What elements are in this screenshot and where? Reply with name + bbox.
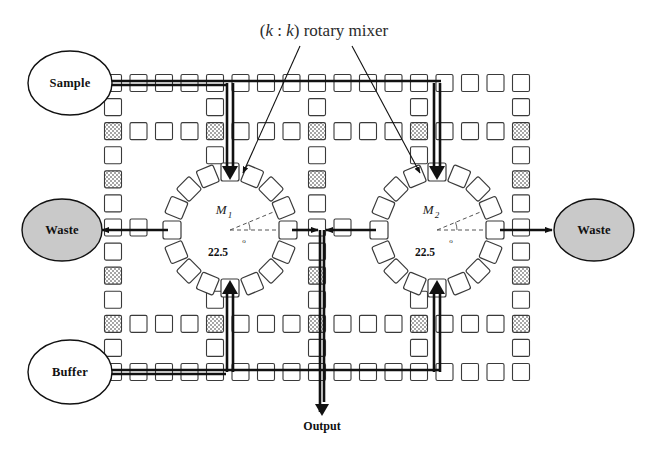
bus-electrode-cell <box>130 364 147 381</box>
electrode-cell <box>411 99 428 116</box>
bus-electrode-cell <box>436 123 453 140</box>
electrode-cell <box>105 243 122 260</box>
title-leader-line-2 <box>352 46 420 173</box>
mixer-ring-electrode <box>258 176 283 201</box>
electrode-cell <box>207 99 224 116</box>
mixer-label: M2 <box>422 202 440 220</box>
bus-electrode-cell <box>130 75 147 92</box>
electrode-cell <box>309 195 326 212</box>
bus-electrode-cell <box>258 315 275 332</box>
hatched-electrode-cell <box>105 267 122 284</box>
bus-electrode-cell <box>487 315 504 332</box>
waste-reservoir-left[interactable]: Waste <box>22 199 102 261</box>
bus-electrode-cell <box>232 123 249 140</box>
sample-reservoir-label: Sample <box>50 76 91 90</box>
bus-electrode-cell <box>513 75 530 92</box>
bus-electrode-cell <box>487 75 504 92</box>
figure-canvas: M122.5oM222.5o SampleBufferWasteWasteOut… <box>0 0 649 455</box>
angle-arc <box>248 222 250 230</box>
mixer-angle-value: 22.5 <box>208 246 228 258</box>
hatched-electrode-cell <box>309 171 326 188</box>
bus-electrode-cell <box>156 315 173 332</box>
mixer-ring-electrode <box>165 240 189 264</box>
buffer-reservoir[interactable]: Buffer <box>28 340 112 404</box>
angle-span-line <box>437 212 481 230</box>
electrode-cell <box>105 195 122 212</box>
mixer-ring-electrode <box>383 176 408 201</box>
bus-electrode-cell <box>360 123 377 140</box>
bus-electrode-cell <box>283 315 300 332</box>
mixer-ring-electrode <box>465 258 490 283</box>
bus-electrode-cell <box>360 75 377 92</box>
waste-reservoir-left-label: Waste <box>45 223 79 237</box>
bus-electrode-cell <box>156 123 173 140</box>
bus-electrode-cell <box>258 364 275 381</box>
bus-electrode-cell <box>462 364 479 381</box>
bus-electrode-cell <box>181 75 198 92</box>
bus-electrode-cell <box>334 75 351 92</box>
bus-electrode-cell <box>436 315 453 332</box>
bus-electrode-cell <box>232 364 249 381</box>
mixer-label: M1 <box>215 202 232 220</box>
mixer-ring-electrode <box>176 258 201 283</box>
electrode-cell <box>513 99 530 116</box>
mixer-ring-electrode <box>372 240 396 264</box>
bus-electrode-cell <box>385 315 402 332</box>
hatched-electrode-cell <box>207 315 224 332</box>
output-arrowhead <box>315 404 329 416</box>
electrode-cell <box>513 243 530 260</box>
electrode-cell <box>411 339 428 356</box>
bus-electrode-cell <box>232 315 249 332</box>
electrode-cell <box>105 339 122 356</box>
bus-electrode-cell <box>181 364 198 381</box>
bus-electrode-cell <box>462 123 479 140</box>
mixer-ring-electrode <box>176 176 201 201</box>
bus-electrode-cell <box>283 364 300 381</box>
electrode-cell <box>513 147 530 164</box>
hatched-electrode-cell <box>105 123 122 140</box>
sample-reservoir[interactable]: Sample <box>28 51 112 115</box>
bus-electrode-cell <box>181 123 198 140</box>
mixer-ring-electrode <box>479 196 503 220</box>
hatched-electrode-cell <box>513 267 530 284</box>
hatched-electrode-cell <box>411 315 428 332</box>
hatched-electrode-cell <box>309 123 326 140</box>
electrode-cell <box>411 147 428 164</box>
bus-electrode-cell <box>309 75 326 92</box>
rotary-mixer: M122.5o <box>163 163 297 297</box>
mixer-ring-electrode <box>372 196 396 220</box>
hatched-electrode-cell <box>513 171 530 188</box>
mixer-ring-electrode <box>258 258 283 283</box>
bus-electrode-cell <box>334 123 351 140</box>
mixer-ring-electrode <box>479 240 503 264</box>
bus-electrode-cell <box>487 364 504 381</box>
electrode-cell <box>513 339 530 356</box>
bus-electrode-cell <box>258 123 275 140</box>
bus-electrode-cell <box>207 75 224 92</box>
biochip-diagram: M122.5oM222.5o SampleBufferWasteWasteOut… <box>0 0 649 455</box>
bus-electrode-cell <box>130 123 147 140</box>
bus-electrode-cell <box>487 123 504 140</box>
mixer-ring-electrode <box>240 272 264 296</box>
mixer-ring-electrode <box>165 196 189 220</box>
mixer-ring-electrode <box>447 165 471 189</box>
hatched-electrode-cell <box>105 171 122 188</box>
bus-electrode-cell <box>334 364 351 381</box>
waste-reservoir-right[interactable]: Waste <box>554 199 634 261</box>
mixer-angle-value: 22.5 <box>415 246 435 258</box>
bus-electrode-cell <box>334 219 351 236</box>
electrode-cell <box>105 99 122 116</box>
rotary-mixer: M222.5o <box>370 163 504 297</box>
mixer-ring-electrode <box>272 240 296 264</box>
electrode-cell <box>513 195 530 212</box>
hatched-electrode-cell <box>105 315 122 332</box>
title-leader-line-1 <box>243 46 300 173</box>
angle-span-line <box>230 212 274 230</box>
buffer-reservoir-label: Buffer <box>52 365 88 379</box>
bus-electrode-cell <box>181 315 198 332</box>
output-label: Output <box>303 419 340 433</box>
mixer-ring-electrode <box>403 165 427 189</box>
bus-electrode-cell <box>360 315 377 332</box>
electrode-cell <box>105 291 122 308</box>
electrode-cell <box>513 291 530 308</box>
